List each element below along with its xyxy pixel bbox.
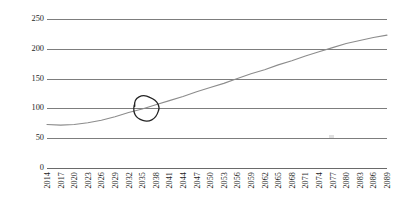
y-tick-label-100: 100: [20, 103, 44, 112]
y-tick-label-150: 150: [20, 74, 44, 83]
y-tick-label-0: 0: [20, 163, 44, 172]
x-tick-label-2068: 2068: [287, 159, 296, 189]
x-tick-label-2089: 2089: [383, 159, 392, 189]
chart-container: Percentage of GDP 050100150200250 201420…: [0, 0, 397, 200]
x-axis-tick-labels: 2014201720202023202620292032203520382041…: [47, 169, 387, 200]
x-tick-label-2017: 2017: [56, 159, 65, 189]
x-tick-label-2059: 2059: [247, 159, 256, 189]
x-tick-label-2020: 2020: [70, 159, 79, 189]
x-tick-label-2041: 2041: [165, 159, 174, 189]
x-tick-label-2077: 2077: [328, 159, 337, 189]
x-tick-label-2056: 2056: [233, 159, 242, 189]
y-tick-label-50: 50: [20, 133, 44, 142]
x-tick-label-2086: 2086: [369, 159, 378, 189]
x-tick-label-2080: 2080: [342, 159, 351, 189]
x-tick-label-2062: 2062: [260, 159, 269, 189]
x-tick-label-2053: 2053: [219, 159, 228, 189]
x-tick-label-2014: 2014: [43, 159, 52, 189]
x-tick-label-2050: 2050: [206, 159, 215, 189]
x-tick-label-2047: 2047: [192, 159, 201, 189]
x-tick-label-2026: 2026: [97, 159, 106, 189]
y-axis-tick-labels: 050100150200250: [20, 0, 44, 200]
y-tick-label-250: 250: [20, 14, 44, 23]
x-tick-label-2071: 2071: [301, 159, 310, 189]
x-tick-label-2035: 2035: [138, 159, 147, 189]
hand-drawn-circle-annotation: [47, 19, 387, 168]
x-tick-label-2083: 2083: [355, 159, 364, 189]
x-tick-label-2065: 2065: [274, 159, 283, 189]
faint-artifact-mark: [329, 135, 334, 138]
x-tick-label-2023: 2023: [83, 159, 92, 189]
x-tick-label-2032: 2032: [124, 159, 133, 189]
plot-area: [47, 19, 387, 168]
x-tick-label-2044: 2044: [179, 159, 188, 189]
x-tick-label-2074: 2074: [315, 159, 324, 189]
x-tick-label-2029: 2029: [111, 159, 120, 189]
x-tick-label-2038: 2038: [151, 159, 160, 189]
y-tick-label-200: 200: [20, 44, 44, 53]
